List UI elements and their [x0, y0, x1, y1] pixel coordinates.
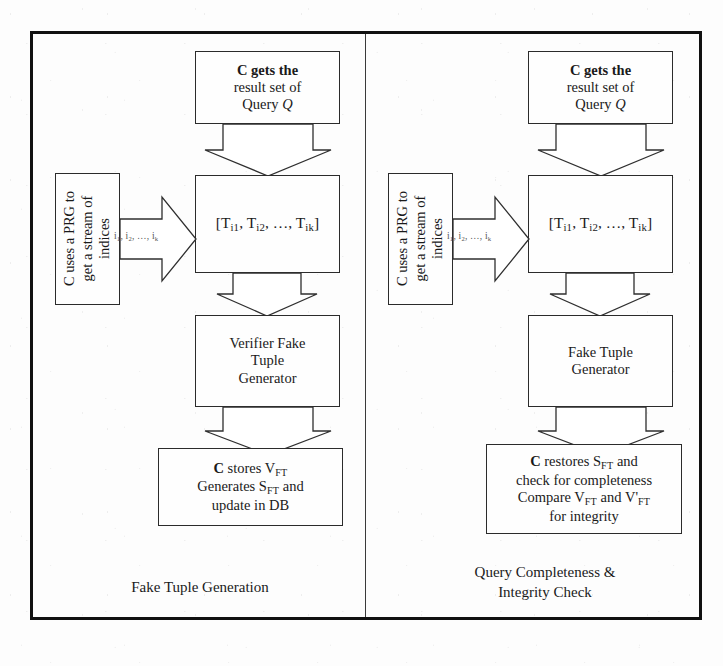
right-edge-label-indices: i1, i2, …, ik: [447, 231, 491, 242]
left-edge-label-indices: i1, i2, …, ik: [114, 231, 158, 242]
figure-canvas: C gets the result set of Query Q RQ [Ti1…: [0, 0, 723, 666]
left-store-line1: C stores VFT: [163, 460, 338, 479]
right-prg-line3: indices: [429, 191, 447, 286]
right-result-set-line2: result set of: [533, 79, 668, 96]
left-result-set-line3: Query Q: [200, 96, 335, 113]
left-generator-line2: Tuple: [200, 352, 335, 369]
left-edge-label-vft: VFT: [240, 409, 262, 426]
left-prg-line2: get a stream of: [79, 191, 97, 286]
right-prg-line2: get a stream of: [412, 191, 430, 286]
left-prg-box: C uses a PRG to get a stream of indices: [55, 173, 120, 305]
left-store-line3: update in DB: [163, 497, 338, 514]
left-tuple-list-text: [Ti1, Ti2, …, Tik]: [200, 214, 335, 234]
right-check-line3: Compare VFT and V'FT: [491, 489, 677, 508]
left-result-set-box: C gets the result set of Query Q: [195, 51, 340, 124]
right-edge-label-rq: RQ: [566, 127, 583, 144]
left-store-line2: Generates SFT and: [163, 478, 338, 497]
right-panel-caption: Query Completeness & Integrity Check: [400, 563, 690, 602]
panel-divider: [365, 34, 366, 617]
right-prg-box: C uses a PRG to get a stream of indices: [388, 173, 453, 305]
left-tuple-list-box: [Ti1, Ti2, …, Tik]: [195, 175, 340, 273]
right-prg-text: C uses a PRG to get a stream of indices: [394, 191, 447, 286]
right-generator-line1: Fake Tuple: [533, 344, 668, 361]
left-generator-line3: Generator: [200, 370, 335, 387]
right-prg-line1: C uses a PRG to: [394, 191, 412, 286]
right-check-line4: for integrity: [491, 508, 677, 525]
right-result-set-line3: Query Q: [533, 96, 668, 113]
left-edge-label-rq: RQ: [233, 127, 250, 144]
right-result-set-line1-actor: C gets the: [570, 62, 631, 78]
right-result-set-box: C gets the result set of Query Q: [528, 51, 673, 124]
right-generator-line2: Generator: [533, 361, 668, 378]
right-generator-box: Fake Tuple Generator: [528, 315, 673, 407]
left-prg-line1: C uses a PRG to: [61, 191, 77, 286]
right-tuple-list-text: [Ti1, Ti2, …, Tik]: [533, 214, 668, 234]
left-prg-line3: indices: [96, 191, 114, 286]
right-check-line2: check for completeness: [491, 472, 677, 489]
right-check-line1: C restores SFT and: [491, 453, 677, 472]
left-store-box: C stores VFT Generates SFT and update in…: [158, 448, 343, 526]
left-result-set-line2: result set of: [200, 79, 335, 96]
right-edge-label-vft-prime: V'FT: [572, 409, 596, 426]
left-result-set-line1-actor: C gets the: [237, 62, 298, 78]
left-prg-text: C uses a PRG to get a stream of indices: [61, 191, 114, 286]
left-generator-line1: Verifier Fake: [200, 335, 335, 352]
right-check-box: C restores SFT and check for completenes…: [486, 444, 682, 534]
left-generator-box: Verifier Fake Tuple Generator: [195, 315, 340, 407]
right-tuple-list-box: [Ti1, Ti2, …, Tik]: [528, 175, 673, 273]
left-panel-caption: Fake Tuple Generation: [40, 578, 360, 598]
